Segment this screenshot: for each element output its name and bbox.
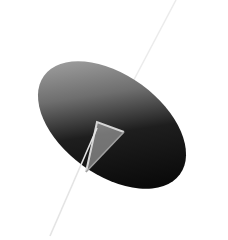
cone-base — [15, 35, 210, 215]
cone-render — [0, 0, 228, 240]
